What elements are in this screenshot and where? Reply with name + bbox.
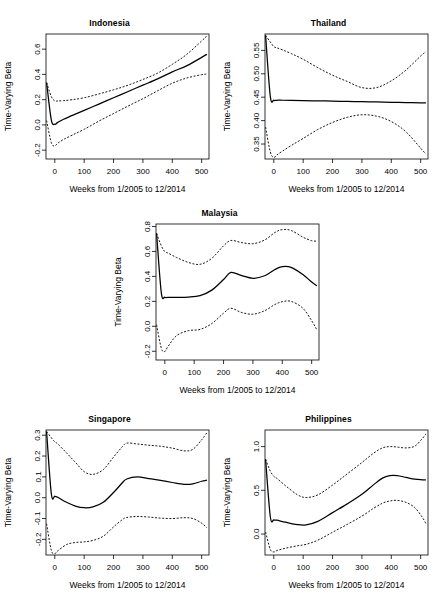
x-tick-label: 500 bbox=[195, 563, 209, 572]
y-tick-label: 0.55 bbox=[253, 42, 262, 58]
series-estimate bbox=[266, 459, 426, 525]
x-tick-label: 100 bbox=[188, 368, 202, 377]
plot-area-thailand: 0.350.400.450.500.550100200300400500Week… bbox=[219, 18, 438, 203]
series-estimate bbox=[266, 35, 426, 103]
y-tick-label: 0.3 bbox=[34, 429, 43, 441]
x-tick-label: 0 bbox=[53, 167, 58, 176]
y-tick-label: -0.1 bbox=[34, 511, 43, 525]
x-tick-label: 100 bbox=[78, 167, 92, 176]
time-varying-beta-figure: Indonesia -0.20.00.20.40.601002003004005… bbox=[0, 0, 438, 616]
x-tick-label: 100 bbox=[297, 167, 311, 176]
x-tick-label: 300 bbox=[355, 167, 369, 176]
x-tick-label: 0 bbox=[272, 167, 277, 176]
y-tick-label: 0.0 bbox=[34, 119, 43, 131]
y-tick-label: 0.6 bbox=[144, 245, 153, 257]
y-tick-label: -0.2 bbox=[34, 143, 43, 157]
chart-panel-thailand: Thailand 0.350.400.450.500.5501002003004… bbox=[219, 18, 438, 203]
y-tick-label: 0.35 bbox=[253, 136, 262, 152]
plot-frame bbox=[46, 34, 209, 159]
y-tick-label: 0.50 bbox=[253, 65, 262, 81]
x-tick-label: 0 bbox=[272, 563, 277, 572]
y-tick-label: 0.0 bbox=[34, 492, 43, 504]
plot-frame bbox=[265, 34, 428, 159]
y-axis-title: Time-Varying Beta bbox=[113, 257, 123, 327]
y-axis-title: Time-Varying Beta bbox=[222, 62, 232, 132]
series-lower-confidence-band bbox=[266, 115, 426, 158]
series-estimate bbox=[47, 54, 207, 124]
x-axis-title: Weeks from 1/2005 to 12/2014 bbox=[288, 580, 404, 590]
y-tick-label: 0.8 bbox=[144, 220, 153, 232]
plot-frame bbox=[46, 430, 209, 555]
y-tick-label: 0.5 bbox=[253, 484, 262, 496]
x-tick-label: 300 bbox=[355, 563, 369, 572]
y-axis-title: Time-Varying Beta bbox=[3, 62, 13, 132]
x-tick-label: 400 bbox=[385, 167, 399, 176]
x-tick-label: 200 bbox=[326, 563, 340, 572]
plot-frame bbox=[265, 430, 428, 555]
y-tick-label: 0.0 bbox=[144, 320, 153, 332]
y-tick-label: 0.2 bbox=[144, 295, 153, 307]
plot-area-philippines: 0.00.51.00100200300400500Weeks from 1/20… bbox=[219, 414, 438, 599]
plot-area-indonesia: -0.20.00.20.40.60100200300400500Weeks fr… bbox=[0, 18, 219, 203]
y-axis-title: Time-Varying Beta bbox=[222, 458, 232, 528]
x-tick-label: 500 bbox=[195, 167, 209, 176]
x-tick-label: 500 bbox=[414, 167, 428, 176]
y-axis-title: Time-Varying Beta bbox=[3, 458, 13, 528]
series-upper-confidence-band bbox=[266, 35, 426, 88]
chart-panel-malaysia: Malaysia -0.20.00.20.40.60.8010020030040… bbox=[110, 208, 329, 404]
x-tick-label: 300 bbox=[246, 368, 260, 377]
chart-panel-indonesia: Indonesia -0.20.00.20.40.601002003004005… bbox=[0, 18, 219, 203]
x-tick-label: 200 bbox=[107, 167, 121, 176]
x-tick-label: 200 bbox=[107, 563, 121, 572]
series-upper-confidence-band bbox=[47, 431, 207, 474]
x-tick-label: 300 bbox=[136, 563, 150, 572]
y-tick-label: -0.2 bbox=[144, 344, 153, 358]
y-tick-label: 0.2 bbox=[34, 450, 43, 462]
series-lower-confidence-band bbox=[266, 500, 426, 552]
chart-panel-singapore: Singapore -0.2-0.10.00.10.20.30100200300… bbox=[0, 414, 219, 599]
x-tick-label: 100 bbox=[297, 563, 311, 572]
series-estimate bbox=[157, 233, 317, 298]
x-tick-label: 100 bbox=[78, 563, 92, 572]
series-upper-confidence-band bbox=[157, 229, 317, 264]
x-tick-label: 300 bbox=[136, 167, 150, 176]
x-tick-label: 400 bbox=[166, 563, 180, 572]
y-tick-label: 0.1 bbox=[34, 471, 43, 483]
y-tick-label: 0.4 bbox=[144, 270, 153, 282]
plot-frame bbox=[156, 224, 319, 360]
plot-area-singapore: -0.2-0.10.00.10.20.30100200300400500Week… bbox=[0, 414, 219, 599]
x-tick-label: 200 bbox=[217, 368, 231, 377]
y-tick-label: 0.6 bbox=[34, 43, 43, 55]
y-tick-label: 0.0 bbox=[253, 528, 262, 540]
series-lower-confidence-band bbox=[47, 516, 207, 553]
x-tick-label: 400 bbox=[276, 368, 290, 377]
x-axis-title: Weeks from 1/2005 to 12/2014 bbox=[179, 385, 295, 395]
x-tick-label: 500 bbox=[414, 563, 428, 572]
x-tick-label: 0 bbox=[53, 563, 58, 572]
x-tick-label: 400 bbox=[166, 167, 180, 176]
chart-panel-philippines: Philippines 0.00.51.00100200300400500Wee… bbox=[219, 414, 438, 599]
y-tick-label: 0.45 bbox=[253, 89, 262, 105]
y-tick-label: -0.2 bbox=[34, 532, 43, 546]
series-lower-confidence-band bbox=[47, 74, 207, 146]
x-tick-label: 200 bbox=[326, 167, 340, 176]
series-lower-confidence-band bbox=[157, 301, 317, 352]
x-axis-title: Weeks from 1/2005 to 12/2014 bbox=[69, 580, 185, 590]
plot-area-malaysia: -0.20.00.20.40.60.80100200300400500Weeks… bbox=[110, 208, 329, 404]
x-axis-title: Weeks from 1/2005 to 12/2014 bbox=[288, 184, 404, 194]
y-tick-label: 0.4 bbox=[34, 68, 43, 80]
x-tick-label: 400 bbox=[385, 563, 399, 572]
x-tick-label: 0 bbox=[163, 368, 168, 377]
series-upper-confidence-band bbox=[266, 434, 426, 498]
x-axis-title: Weeks from 1/2005 to 12/2014 bbox=[69, 184, 185, 194]
y-tick-label: 0.40 bbox=[253, 112, 262, 128]
y-tick-label: 0.2 bbox=[34, 94, 43, 106]
x-tick-label: 500 bbox=[305, 368, 319, 377]
y-tick-label: 1.0 bbox=[253, 440, 262, 452]
